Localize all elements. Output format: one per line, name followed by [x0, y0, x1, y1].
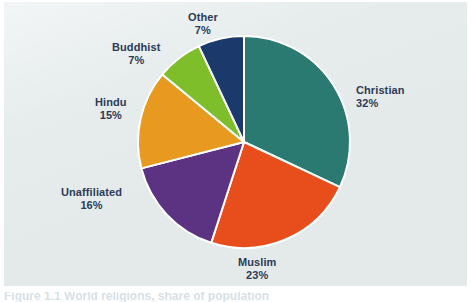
- pie-chart-svg: [0, 0, 463, 284]
- slice-label-hindu-value: 15%: [95, 109, 127, 122]
- slice-label-hindu-name: Hindu: [95, 96, 127, 109]
- slice-label-christian: Christian 32%: [356, 84, 405, 110]
- slice-label-hindu: Hindu 15%: [95, 96, 127, 122]
- slice-label-muslim-name: Muslim: [238, 256, 277, 269]
- slice-label-other: Other 7%: [188, 11, 218, 37]
- slice-label-christian-name: Christian: [356, 84, 405, 97]
- slice-label-buddhist: Buddhist 7%: [112, 41, 160, 67]
- slice-label-other-name: Other: [188, 11, 218, 24]
- slice-label-muslim: Muslim 23%: [238, 256, 277, 282]
- slice-label-muslim-value: 23%: [238, 269, 277, 282]
- slice-label-buddhist-name: Buddhist: [112, 41, 160, 54]
- slice-label-other-value: 7%: [188, 24, 218, 37]
- slice-label-christian-value: 32%: [356, 97, 405, 110]
- figure-container: Christian 32% Muslim 23% Unaffiliated 16…: [0, 0, 471, 302]
- slice-label-unaffiliated-name: Unaffiliated: [61, 186, 122, 199]
- pie-slice-group: [138, 36, 350, 248]
- slice-label-unaffiliated-value: 16%: [61, 199, 122, 212]
- figure-caption-text: Figure 1.1 World religions, share of pop…: [4, 292, 269, 302]
- slice-label-buddhist-value: 7%: [112, 54, 160, 67]
- figure-caption: Figure 1.1 World religions, share of pop…: [4, 292, 467, 302]
- pie-chart: [0, 0, 463, 284]
- slice-label-unaffiliated: Unaffiliated 16%: [61, 186, 122, 212]
